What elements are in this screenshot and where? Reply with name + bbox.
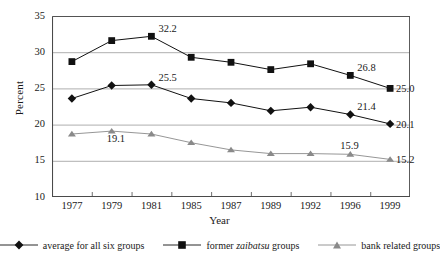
data-point-marker bbox=[188, 54, 195, 61]
data-point-marker bbox=[267, 66, 274, 73]
legend-label: average for all six groups bbox=[43, 240, 145, 251]
y-tick-label: 10 bbox=[15, 192, 45, 202]
data-point-marker bbox=[346, 110, 354, 118]
chart-legend: average for all six groupsformer zaibats… bbox=[0, 239, 439, 251]
y-tick-label: 25 bbox=[15, 83, 45, 93]
x-tick-label: 1987 bbox=[209, 200, 253, 211]
data-point-marker bbox=[147, 81, 155, 89]
data-point-marker bbox=[108, 37, 115, 44]
x-axis-title: Year bbox=[0, 214, 439, 226]
data-point-marker bbox=[267, 107, 275, 115]
x-tick-label: 1981 bbox=[129, 200, 173, 211]
legend-label: bank related groups bbox=[361, 240, 440, 251]
point-value-label: 15.9 bbox=[340, 140, 358, 151]
x-tick-label: 1989 bbox=[249, 200, 293, 211]
x-tick-label: 1999 bbox=[368, 200, 412, 211]
plot-svg bbox=[52, 16, 410, 197]
point-value-label: 15.2 bbox=[396, 154, 414, 165]
y-tick-label: 35 bbox=[15, 11, 45, 21]
data-point-marker bbox=[107, 81, 115, 89]
legend-item: bank related groups bbox=[317, 239, 440, 251]
legend-item: former zaibatsu groups bbox=[162, 239, 299, 251]
data-point-marker bbox=[387, 85, 394, 92]
x-tick-label: 1985 bbox=[169, 200, 213, 211]
legend-marker-diamond bbox=[0, 239, 39, 251]
point-value-label: 21.4 bbox=[357, 101, 375, 112]
y-tick-label: 30 bbox=[15, 47, 45, 57]
x-tick-label: 1977 bbox=[50, 200, 94, 211]
data-point-marker bbox=[307, 60, 314, 67]
data-point-marker bbox=[68, 94, 76, 102]
legend-marker-triangle bbox=[317, 239, 357, 251]
point-value-label: 25.0 bbox=[396, 83, 414, 94]
data-point-marker bbox=[306, 103, 314, 111]
data-point-marker bbox=[228, 59, 235, 66]
data-point-marker bbox=[227, 99, 235, 107]
x-tick-label: 1996 bbox=[328, 200, 372, 211]
point-value-label: 25.5 bbox=[158, 72, 176, 83]
y-tick-label: 20 bbox=[15, 119, 45, 129]
point-value-label: 19.1 bbox=[107, 133, 125, 144]
point-value-label: 20.1 bbox=[396, 119, 414, 130]
x-tick-label: 1979 bbox=[90, 200, 134, 211]
data-point-marker bbox=[386, 120, 394, 128]
y-tick-label: 15 bbox=[15, 155, 45, 165]
plot-area bbox=[52, 16, 410, 197]
legend-marker-square bbox=[162, 239, 202, 251]
x-tick-label: 1992 bbox=[289, 200, 333, 211]
legend-label-italic: zaibatsu bbox=[236, 240, 269, 251]
legend-item: average for all six groups bbox=[0, 239, 144, 251]
data-point-marker bbox=[187, 94, 195, 102]
data-point-marker bbox=[69, 58, 76, 65]
point-value-label: 32.2 bbox=[158, 23, 176, 34]
data-point-marker bbox=[148, 33, 155, 40]
legend-label: former zaibatsu groups bbox=[206, 240, 299, 251]
point-value-label: 26.8 bbox=[357, 62, 375, 73]
data-point-marker bbox=[347, 72, 354, 79]
